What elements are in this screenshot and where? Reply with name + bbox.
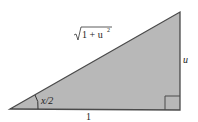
hypotenuse-label: 1 + u 2 bbox=[74, 27, 112, 40]
svg-text:1 + u: 1 + u bbox=[82, 29, 103, 40]
opposite-label: u bbox=[183, 54, 188, 65]
hypotenuse-radicand: 1 + u bbox=[82, 29, 103, 40]
hypotenuse-exponent: 2 bbox=[107, 27, 110, 33]
adjacent-label: 1 bbox=[86, 111, 91, 122]
angle-label: x/2 bbox=[40, 95, 53, 106]
triangle-diagram: 1 + u 2 u 1 x/2 bbox=[0, 0, 198, 122]
